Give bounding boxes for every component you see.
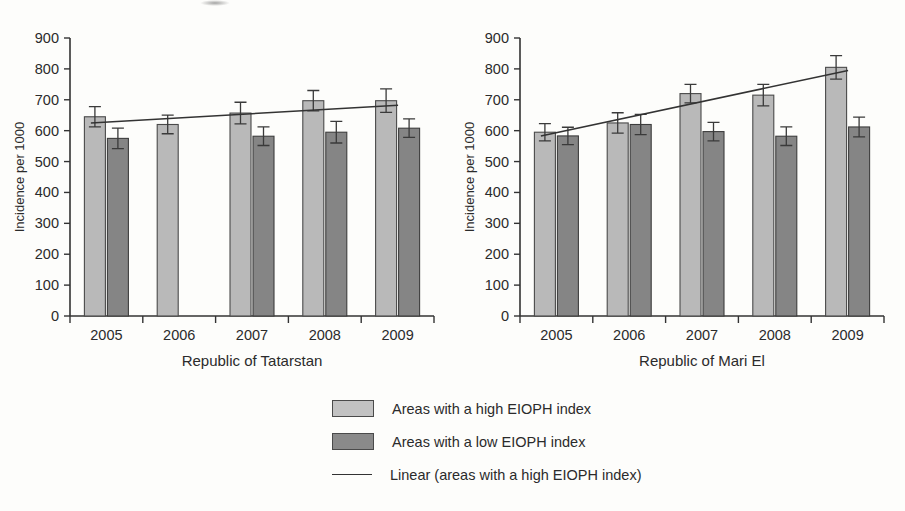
tatarstan-y-tick-label: 0 xyxy=(51,308,59,324)
tatarstan-x-tick-label: 2005 xyxy=(90,327,122,343)
legend-item-low: Areas with a low EIOPH index xyxy=(0,425,905,458)
mari-el-bar-high xyxy=(534,132,555,316)
tatarstan-bar-low xyxy=(107,138,128,316)
mari-el-y-tick-label: 400 xyxy=(485,184,509,200)
mari-el-y-tick-label: 300 xyxy=(485,215,509,231)
tatarstan-y-tick-label: 900 xyxy=(35,30,59,46)
mari-el-y-tick-label: 100 xyxy=(485,277,509,293)
tatarstan-bar-high xyxy=(84,117,105,316)
mari-el-x-tick-label: 2007 xyxy=(686,327,718,343)
tatarstan-y-tick-label: 600 xyxy=(35,123,59,139)
chart-legend: Areas with a high EIOPH index Areas with… xyxy=(0,392,905,491)
tatarstan-y-tick-label: 800 xyxy=(35,61,59,77)
legend-item-trend: Linear (areas with a high EIOPH index) xyxy=(0,458,905,491)
mari-el-bar-high xyxy=(826,67,847,316)
mari-el-bar-low xyxy=(630,124,651,316)
tatarstan-x-tick-label: 2006 xyxy=(163,327,195,343)
mari-el-y-tick-label: 0 xyxy=(501,308,509,324)
tatarstan-bar-high xyxy=(157,124,178,316)
tatarstan-x-tick-label: 2007 xyxy=(236,327,268,343)
tatarstan-bar-low xyxy=(399,128,420,316)
mari-el-y-tick-label: 200 xyxy=(485,246,509,262)
tatarstan-y-axis-title: Incidence per 1000 xyxy=(12,122,27,233)
chart-svg-tatarstan: 0100200300400500600700800900Incidence pe… xyxy=(8,12,448,392)
mari-el-bar-low xyxy=(557,136,578,316)
mari-el-x-tick-label: 2006 xyxy=(613,327,645,343)
mari-el-bar-low xyxy=(849,127,870,316)
tatarstan-y-tick-label: 500 xyxy=(35,154,59,170)
mari-el-bar-low xyxy=(703,132,724,316)
legend-swatch-high-icon xyxy=(332,400,374,417)
tatarstan-bar-low xyxy=(253,136,274,316)
mari-el-y-tick-label: 600 xyxy=(485,123,509,139)
mari-el-bar-high xyxy=(607,123,628,316)
mari-el-bar-high xyxy=(753,95,774,316)
tatarstan-bar-low xyxy=(326,132,347,316)
legend-swatch-low-icon xyxy=(332,433,374,450)
mari-el-x-axis-title: Republic of Mari El xyxy=(639,352,765,369)
tatarstan-x-axis-title: Republic of Tatarstan xyxy=(182,352,323,369)
chart-svg-mari-el: 0100200300400500600700800900Incidence pe… xyxy=(458,12,898,392)
tatarstan-bar-high xyxy=(303,101,324,316)
tatarstan-y-tick-label: 100 xyxy=(35,277,59,293)
mari-el-y-axis-title: Incidence per 1000 xyxy=(462,122,477,233)
mari-el-x-tick-label: 2005 xyxy=(540,327,572,343)
mari-el-bar-low xyxy=(776,136,797,316)
mari-el-bar-high xyxy=(680,94,701,316)
tatarstan-y-tick-label: 700 xyxy=(35,92,59,108)
tatarstan-y-tick-label: 400 xyxy=(35,184,59,200)
mari-el-y-tick-label: 700 xyxy=(485,92,509,108)
legend-label-low: Areas with a low EIOPH index xyxy=(392,434,585,450)
tatarstan-bar-high xyxy=(230,113,251,316)
tatarstan-bar-high xyxy=(376,101,397,316)
mari-el-y-tick-label: 800 xyxy=(485,61,509,77)
chart-panel-mari-el: 0100200300400500600700800900Incidence pe… xyxy=(458,12,898,392)
legend-line-icon xyxy=(332,474,372,475)
figure-eioph-incidence: 0100200300400500600700800900Incidence pe… xyxy=(0,0,905,511)
chart-panel-tatarstan: 0100200300400500600700800900Incidence pe… xyxy=(8,12,448,392)
legend-label-trend: Linear (areas with a high EIOPH index) xyxy=(390,467,641,483)
mari-el-x-tick-label: 2008 xyxy=(759,327,791,343)
tatarstan-x-tick-label: 2008 xyxy=(309,327,341,343)
tatarstan-y-tick-label: 200 xyxy=(35,246,59,262)
mari-el-y-tick-label: 900 xyxy=(485,30,509,46)
legend-item-high: Areas with a high EIOPH index xyxy=(0,392,905,425)
tatarstan-x-tick-label: 2009 xyxy=(381,327,413,343)
tatarstan-y-tick-label: 300 xyxy=(35,215,59,231)
mari-el-y-tick-label: 500 xyxy=(485,154,509,170)
mari-el-x-tick-label: 2009 xyxy=(831,327,863,343)
legend-label-high: Areas with a high EIOPH index xyxy=(392,401,591,417)
